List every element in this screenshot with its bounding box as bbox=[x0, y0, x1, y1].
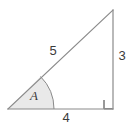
hypotenuse-label: 5 bbox=[49, 43, 56, 58]
angle-a-label: A bbox=[29, 88, 38, 103]
triangle-figure: 5 3 4 A bbox=[0, 0, 135, 128]
vertical-leg-label: 3 bbox=[118, 48, 125, 63]
right-angle-square-icon bbox=[104, 100, 113, 109]
horizontal-leg-label: 4 bbox=[62, 110, 69, 125]
side-hypotenuse-line bbox=[8, 10, 113, 109]
triangle-diagram: 5 3 4 A bbox=[0, 0, 135, 128]
right-angle-marker bbox=[104, 100, 113, 109]
